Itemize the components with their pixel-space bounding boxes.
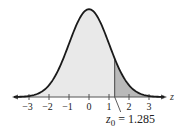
normal-distribution-chart: −3−2−10123z z0 = 1.285 [0, 0, 180, 134]
x-tick-label: −2 [42, 101, 53, 112]
x-tick-label: 2 [127, 101, 132, 112]
x-tick-label: 0 [87, 101, 92, 112]
z0-annotation: z0 = 1.285 [105, 112, 155, 128]
x-axis-label: z [169, 91, 174, 102]
x-tick-label: −1 [62, 101, 73, 112]
shaded-right-tail [115, 59, 164, 97]
area-under-curve [14, 9, 164, 97]
x-tick-label: 1 [107, 101, 112, 112]
z0-value: = 1.285 [115, 112, 155, 126]
x-tick-label: −3 [22, 101, 33, 112]
x-tick-label: 3 [147, 101, 152, 112]
z0-leader-line [115, 97, 121, 112]
